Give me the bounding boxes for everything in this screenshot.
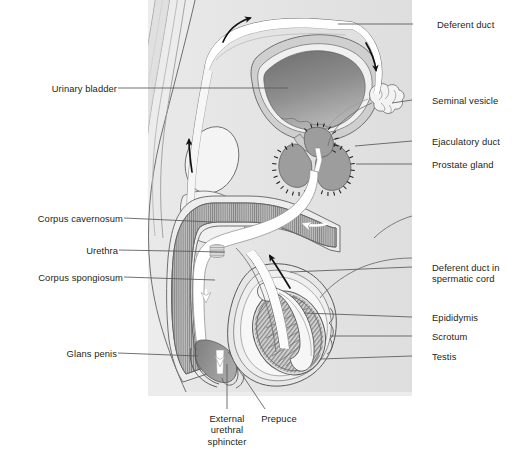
label-epididymis: Epididymis	[432, 312, 478, 323]
label-prostate-gland: Prostate gland	[432, 159, 494, 170]
label-seminal-vesicle: Seminal vesicle	[432, 95, 498, 106]
label-prepuce: Prepuce	[250, 413, 308, 424]
external-urethral-sphincter	[210, 245, 224, 258]
anatomy-diagram	[0, 0, 525, 466]
label-corpus-cavernosum: Corpus cavernosum	[0, 213, 123, 224]
label-scrotum: Scrotum	[432, 331, 467, 342]
label-corpus-spongiosum: Corpus spongiosum	[0, 272, 123, 283]
label-urethra: Urethra	[0, 245, 118, 256]
label-testis: Testis	[432, 351, 456, 362]
label-ejaculatory-duct: Ejaculatory duct	[432, 136, 500, 147]
label-urinary-bladder: Urinary bladder	[0, 83, 117, 94]
label-deferent-duct-in-spermatic-cord: Deferent duct in spermatic cord	[432, 262, 499, 285]
label-glans-penis: Glans penis	[0, 348, 117, 359]
label-deferent-duct: Deferent duct	[437, 19, 494, 30]
